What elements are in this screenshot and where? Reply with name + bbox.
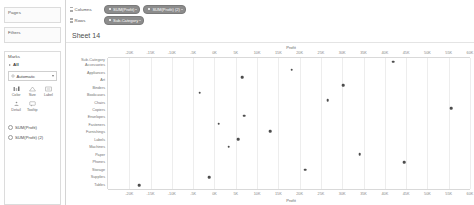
scatter-point[interactable] <box>208 176 211 179</box>
scatter-point[interactable] <box>342 84 345 87</box>
scatter-point[interactable] <box>228 145 231 148</box>
row-header-item[interactable]: Bookcases <box>66 92 105 99</box>
x-axis-tick-label: -15K <box>147 51 155 55</box>
marks-color-label: Color <box>12 93 21 97</box>
row-header-item[interactable]: Accessories <box>66 62 105 69</box>
scatter-point[interactable] <box>237 138 240 141</box>
scatter-point[interactable] <box>269 130 272 133</box>
columns-shelf-name: Columns <box>70 7 104 12</box>
chevron-down-icon <box>181 9 183 10</box>
row-header-item[interactable]: Art <box>66 77 105 84</box>
x-axis-tick-label: 0K <box>212 192 217 196</box>
pill-label: Sub-Category <box>113 18 138 23</box>
marks-buttons-grid: Color Size <box>8 85 57 115</box>
row-header-item[interactable]: Supplies <box>66 174 105 181</box>
label-icon <box>44 85 52 92</box>
row-header-item[interactable]: Binders <box>66 85 105 92</box>
chevron-down-icon <box>52 75 54 77</box>
row-header-item[interactable]: Fasteners <box>66 122 105 129</box>
scatter-point[interactable] <box>304 168 307 171</box>
columns-shelf[interactable]: Columns SUM(Profit) SUM(Profit) (2) <box>70 5 470 14</box>
x-axis-tick-label: 15K <box>275 51 282 55</box>
scatter-point[interactable] <box>198 91 201 94</box>
x-axis-tick-label: 0K <box>212 51 217 55</box>
scatter-point[interactable] <box>243 114 246 117</box>
scatter-point[interactable] <box>217 122 220 125</box>
x-axis-tick-label: 30K <box>339 192 346 196</box>
filters-shelf[interactable]: Filters <box>4 27 61 43</box>
tableau-app-window: Pages Filters Marks All Automatic <box>0 0 474 205</box>
scatter-point[interactable] <box>450 107 453 110</box>
row-header-item[interactable]: Tables <box>66 182 105 189</box>
row-header-item[interactable]: Copiers <box>66 107 105 114</box>
marks-label-label: Label <box>44 93 53 97</box>
row-header-item[interactable]: Storage <box>66 167 105 174</box>
columns-pill-sum-profit[interactable]: SUM(Profit) <box>104 5 140 14</box>
x-axis-title-bottom: Profit <box>108 197 474 205</box>
x-axis-tick-label: 60K <box>467 192 474 196</box>
x-axis-tick-label: 50K <box>424 51 431 55</box>
pages-shelf[interactable]: Pages <box>4 7 61 23</box>
x-axis-tick-label: 50K <box>424 192 431 196</box>
row-header-item[interactable]: Envelopes <box>66 115 105 122</box>
rows-shelf-name: Rows <box>70 18 104 23</box>
x-axis-tick-label: 10K <box>254 192 261 196</box>
row-header-item[interactable]: Phones <box>66 159 105 166</box>
mark-type-dropdown[interactable]: Automatic <box>8 71 57 81</box>
x-axis-tick-label: 15K <box>275 192 282 196</box>
marks-all-row[interactable]: All <box>8 62 57 67</box>
marks-size-label: Size <box>29 93 36 97</box>
row-header-item[interactable]: Appliances <box>66 70 105 77</box>
marks-pill-sum-profit[interactable]: SUM(Profit) <box>8 125 57 130</box>
x-axis-tick-label: 30K <box>339 51 346 55</box>
scatter-plot-canvas[interactable] <box>108 58 470 189</box>
chevron-down-icon <box>139 20 141 21</box>
pill-label: SUM(Profit) (2) <box>152 7 180 12</box>
row-header-item[interactable]: Furnishings <box>66 129 105 136</box>
columns-pill-sum-profit-2[interactable]: SUM(Profit) (2) <box>143 5 186 14</box>
scatter-point[interactable] <box>290 68 293 71</box>
gridline <box>406 58 407 189</box>
marks-label-button[interactable]: Label <box>40 85 56 97</box>
x-axis-tick-label: 5K <box>233 192 238 196</box>
columns-shelf-label: Columns <box>75 7 92 12</box>
marks-pill-label: SUM(Profit) (2) <box>15 135 43 140</box>
scatter-point[interactable] <box>241 76 244 79</box>
row-header-item[interactable]: Labels <box>66 137 105 144</box>
marks-card-title: Marks <box>8 54 57 59</box>
gridline <box>257 58 258 189</box>
gridline <box>236 58 237 189</box>
marks-tooltip-button[interactable]: Tooltip <box>24 100 40 112</box>
scatter-point[interactable] <box>326 99 329 102</box>
scatter-point[interactable] <box>138 184 141 187</box>
marks-detail-button[interactable]: Detail <box>8 100 24 112</box>
row-header-item[interactable]: Machines <box>66 144 105 151</box>
x-axis-tick-label: 10K <box>254 51 261 55</box>
row-header-column: Sub-Category AccessoriesAppliancesArtBin… <box>66 58 108 189</box>
gridline <box>193 58 194 189</box>
x-axis-tick-label: 60K <box>467 51 474 55</box>
row-header-item[interactable]: Chairs <box>66 100 105 107</box>
x-axis-tick-label: -20K <box>125 192 133 196</box>
x-axis-tick-label: 20K <box>296 51 303 55</box>
chevron-down-icon <box>135 9 137 10</box>
x-axis-tick-label: 35K <box>360 51 367 55</box>
scatter-point[interactable] <box>358 153 361 156</box>
x-axis-tick-label: 55K <box>445 51 452 55</box>
scatter-point[interactable] <box>403 161 406 164</box>
rows-pill-sub-category[interactable]: Sub-Category <box>104 16 144 25</box>
gridline <box>470 58 471 189</box>
marks-color-button[interactable]: Color <box>8 85 24 97</box>
rows-shelf[interactable]: Rows Sub-Category <box>70 16 470 25</box>
marks-detail-label: Detail <box>11 108 20 112</box>
x-axis-tick-label: 25K <box>318 51 325 55</box>
row-header-item[interactable]: Paper <box>66 152 105 159</box>
marks-size-button[interactable]: Size <box>24 85 40 97</box>
marks-pill-list: SUM(Profit) SUM(Profit) (2) <box>8 125 57 140</box>
sheet-title-bar: Sheet 14 <box>66 29 474 43</box>
gridline <box>300 58 301 189</box>
automatic-icon <box>11 74 15 78</box>
scatter-point[interactable] <box>392 61 395 64</box>
grip-icon <box>109 19 111 23</box>
marks-pill-sum-profit-2[interactable]: SUM(Profit) (2) <box>8 135 57 140</box>
